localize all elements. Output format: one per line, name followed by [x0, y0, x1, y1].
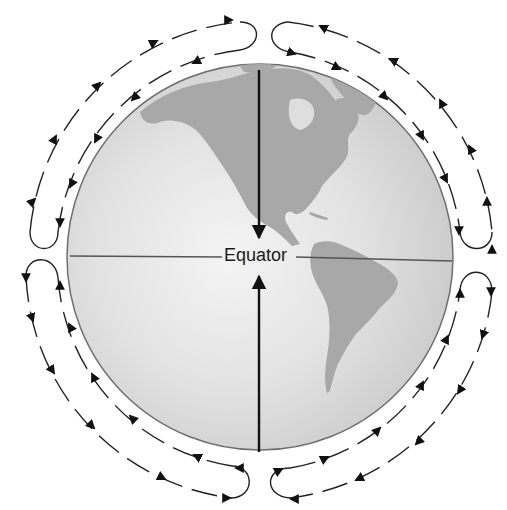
arrow-icon — [194, 455, 196, 456]
arrow-icon — [356, 479, 358, 480]
arrow-icon — [338, 68, 340, 69]
arrow-icon — [32, 318, 33, 321]
nw-top-turn — [240, 22, 257, 50]
arrow-icon — [155, 41, 157, 42]
equator-line — [70, 256, 222, 257]
arrow-icon — [92, 426, 94, 428]
circulation-diagram: Equator — [0, 0, 507, 510]
arrow-icon — [70, 185, 71, 187]
arrow-icon — [469, 146, 470, 148]
arrow-icon — [280, 469, 282, 470]
arrow-icon — [34, 199, 35, 200]
arrow-icon — [440, 100, 441, 102]
arrow-icon — [390, 59, 392, 60]
se-top-turn — [460, 272, 492, 292]
arrow-icon — [55, 136, 56, 138]
arrow-icon — [292, 53, 295, 54]
sw-top-turn — [26, 260, 58, 278]
arrow-icon — [326, 457, 328, 458]
nw-bottom-turn — [30, 232, 58, 249]
arrow-icon — [69, 324, 70, 326]
arrow-icon — [416, 442, 418, 444]
arrow-icon — [446, 180, 447, 182]
equator-label: Equator — [224, 246, 287, 264]
sw-bottom-turn — [232, 466, 249, 498]
ne-top-turn — [272, 22, 290, 52]
arrow-icon — [132, 98, 134, 100]
arrow-icon — [130, 416, 132, 418]
ne-bottom-turn — [460, 232, 492, 249]
arrow-icon — [422, 137, 423, 139]
arrow-icon — [482, 335, 483, 338]
se-bottom-turn — [271, 468, 291, 498]
arrow-icon — [193, 62, 195, 63]
arrow-icon — [422, 382, 423, 384]
arrow-icon — [52, 370, 54, 373]
arrow-icon — [458, 390, 460, 393]
arrow-icon — [447, 336, 448, 338]
arrow-icon — [378, 428, 380, 430]
arrow-icon — [92, 374, 93, 376]
arrow-icon — [163, 478, 165, 479]
arrow-icon — [320, 26, 322, 27]
arrow-icon — [98, 83, 100, 85]
arrow-icon — [95, 140, 96, 142]
